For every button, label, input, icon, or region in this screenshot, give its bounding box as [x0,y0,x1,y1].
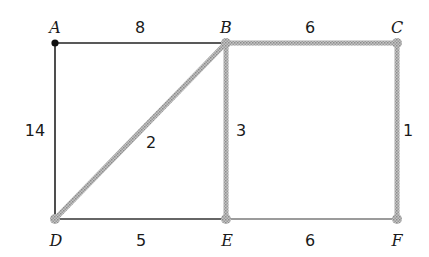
edge-b-d [55,43,226,219]
node-e [221,214,231,224]
weight-b-e: 3 [236,121,246,140]
weight-e-f: 6 [305,231,315,250]
weight-b-c: 6 [305,18,315,37]
node-b [221,38,231,48]
weight-a-d: 14 [25,121,45,140]
node-label-f: F [390,231,403,250]
node-label-b: B [219,18,232,37]
node-a [51,39,58,46]
node-label-c: C [391,18,403,37]
weight-a-b: 8 [135,18,145,37]
node-label-d: D [49,231,63,250]
weight-d-e: 5 [136,231,146,250]
weight-c-f: 1 [403,121,413,140]
node-label-e: E [220,231,233,250]
graph-diagram: A B C D E F 8 6 14 2 3 1 5 6 [0,0,429,257]
node-d [50,214,60,224]
weight-b-d: 2 [146,133,156,152]
node-f [392,214,402,224]
node-c [392,38,402,48]
highlighted-edges [55,43,397,219]
node-label-a: A [47,18,61,37]
